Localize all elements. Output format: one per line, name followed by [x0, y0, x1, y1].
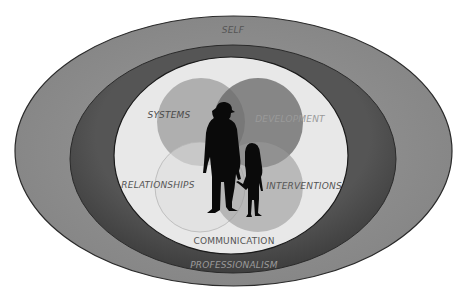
label-relationships: RELATIONSHIPS: [121, 180, 194, 190]
label-interventions: INTERVENTIONS: [266, 181, 342, 191]
label-systems: SYSTEMS: [148, 110, 191, 120]
label-communication: COMMUNICATION: [193, 236, 274, 246]
label-development: DEVELOPMENT: [255, 114, 326, 124]
nested-ellipse-diagram: SELF SYSTEMS DEVELOPMENT RELATIONSHIPS I…: [0, 0, 467, 297]
label-professionalism: PROFESSIONALISM: [190, 260, 278, 270]
label-self: SELF: [222, 25, 245, 35]
